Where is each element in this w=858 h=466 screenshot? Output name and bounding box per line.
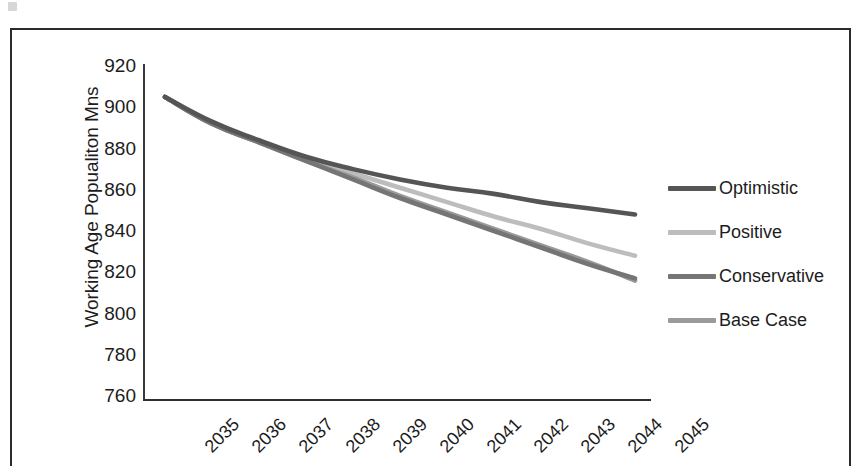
y-axis-tick-760: 760 [78,385,136,407]
series-lines [143,56,651,401]
x-axis-tick-2045: 2045 [671,414,714,457]
legend-swatch-icon [668,186,716,191]
legend-label: Base Case [719,310,807,331]
legend-item-positive[interactable]: Positive [668,210,848,254]
y-axis-tick-860: 860 [78,179,136,201]
chart-page: Working Age Popualiton Mns 9209008808608… [0,0,858,466]
y-axis-tick-780: 780 [78,344,136,366]
x-axis-tick-2041: 2041 [483,414,526,457]
chart-container: Working Age Popualiton Mns 9209008808608… [0,0,858,466]
x-axis-tick-2039: 2039 [389,414,432,457]
y-axis-tick-labels: 920900880860840820800780760 [78,0,136,466]
y-axis-tick-920: 920 [78,55,136,77]
plot-area [143,56,651,401]
x-axis-tick-labels: 2035203620372038203920402041204220432044… [143,404,663,466]
x-axis-tick-2043: 2043 [577,414,620,457]
x-axis-tick-2044: 2044 [624,414,667,457]
y-axis-tick-840: 840 [78,220,136,242]
x-axis-tick-2042: 2042 [530,414,573,457]
legend-item-conservative[interactable]: Conservative [668,254,848,298]
legend-label: Positive [719,222,782,243]
x-axis-tick-2040: 2040 [436,414,479,457]
legend-item-base-case[interactable]: Base Case [668,298,848,342]
legend-item-optimistic[interactable]: Optimistic [668,166,848,210]
legend-swatch-icon [668,230,716,235]
x-axis-tick-2038: 2038 [342,414,385,457]
y-axis-tick-800: 800 [78,303,136,325]
x-axis-tick-2037: 2037 [295,414,338,457]
y-axis-tick-820: 820 [78,261,136,283]
y-axis-tick-900: 900 [78,96,136,118]
x-axis-tick-2036: 2036 [248,414,291,457]
legend-swatch-icon [668,274,716,279]
x-axis-tick-2035: 2035 [201,414,244,457]
series-line-positive [165,97,635,256]
y-axis-tick-880: 880 [78,138,136,160]
legend-swatch-icon [668,318,716,323]
legend-label: Conservative [719,266,824,287]
chart-legend: OptimisticPositiveConservativeBase Case [668,166,848,342]
legend-label: Optimistic [719,178,798,199]
